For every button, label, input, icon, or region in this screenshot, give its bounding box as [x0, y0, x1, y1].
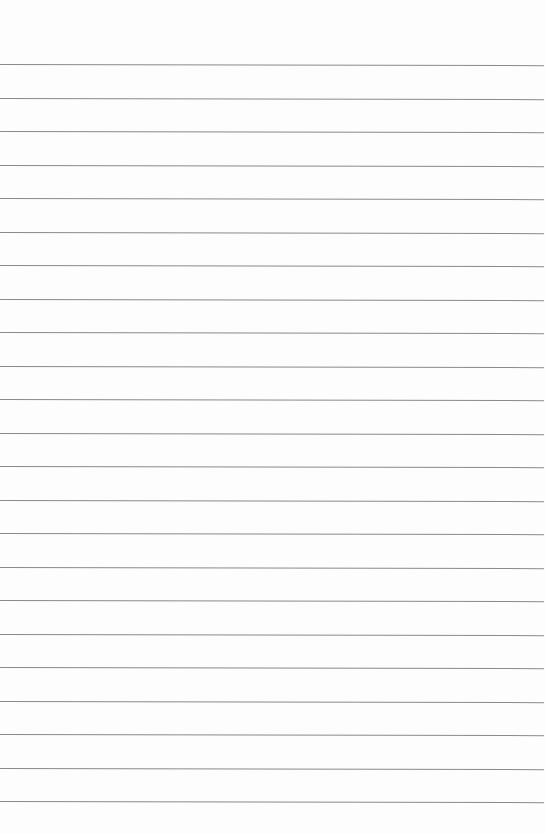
ruled-line: [0, 801, 544, 803]
ruled-line: [0, 165, 544, 167]
ruled-line: [0, 399, 544, 401]
ruled-line: [0, 433, 544, 435]
ruled-line: [0, 265, 544, 267]
ruled-line: [0, 667, 544, 669]
ruled-line: [0, 366, 544, 368]
ruled-line: [0, 64, 544, 66]
ruled-line: [0, 768, 544, 770]
ruled-line: [0, 734, 544, 736]
ruled-line: [0, 131, 544, 133]
ruled-line: [0, 98, 544, 100]
ruled-line: [0, 299, 544, 301]
ruled-line: [0, 533, 544, 535]
ruled-line: [0, 332, 544, 334]
ruled-line: [0, 600, 544, 602]
ruled-line: [0, 232, 544, 234]
ruled-line: [0, 701, 544, 703]
ruled-line: [0, 198, 544, 200]
ruled-line: [0, 466, 544, 468]
lined-paper-page: [0, 0, 546, 834]
ruled-line: [0, 634, 544, 636]
ruled-line: [0, 500, 544, 502]
ruled-line: [0, 567, 544, 569]
